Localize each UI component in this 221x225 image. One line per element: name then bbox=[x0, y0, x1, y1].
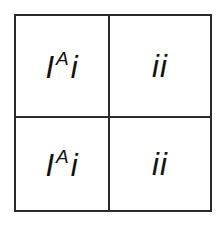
allele-recessive: i bbox=[71, 50, 79, 85]
genotype-label: IAi bbox=[45, 147, 78, 181]
cell-bottom-right: ii bbox=[110, 118, 210, 210]
punnett-square: IAi ii IAi ii bbox=[14, 14, 212, 212]
allele-base: I bbox=[45, 50, 55, 85]
genotype-label: ii bbox=[152, 51, 168, 82]
allele-superscript: A bbox=[56, 146, 70, 167]
allele-base: I bbox=[45, 148, 55, 183]
genotype-label: ii bbox=[152, 149, 168, 180]
cell-top-right: ii bbox=[110, 16, 210, 116]
cell-bottom-left: IAi bbox=[16, 118, 108, 210]
allele-superscript: A bbox=[56, 48, 70, 69]
allele-recessive: i bbox=[71, 148, 79, 183]
cell-top-left: IAi bbox=[16, 16, 108, 116]
genotype-label: IAi bbox=[45, 49, 78, 83]
